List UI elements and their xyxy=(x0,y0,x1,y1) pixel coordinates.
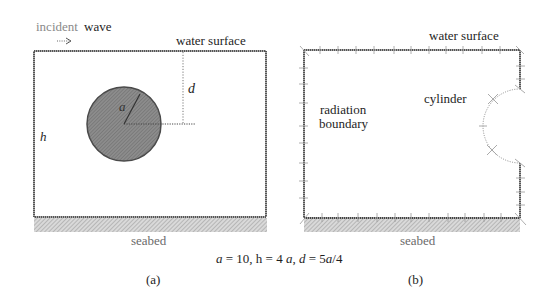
caption-d-tail: /4 xyxy=(332,251,342,266)
parameter-caption: a = 10, h = 4 a, d = 5a/4 xyxy=(216,252,342,265)
figure: incident wave water surface d a h seabed… xyxy=(0,0,556,299)
radius-a-label: a xyxy=(119,100,126,113)
corner-cross-marks xyxy=(300,46,526,225)
radiation-boundary-label-line2: boundary xyxy=(319,117,368,130)
caption-d-value: = 5 xyxy=(305,251,325,266)
cylinder-boundary-arc xyxy=(483,89,520,163)
panel-a xyxy=(34,38,267,232)
seabed-hatch-a xyxy=(34,218,267,232)
seabed-label-a: seabed xyxy=(131,234,166,247)
panel-b-label: (b) xyxy=(408,273,423,286)
panel-a-label: (a) xyxy=(146,273,160,286)
depth-h-label: h xyxy=(40,130,47,143)
water-surface-label-b: water surface xyxy=(429,29,499,42)
submergence-d-label: d xyxy=(188,82,195,95)
seabed-label-b: seabed xyxy=(400,234,435,247)
radiation-boundary-label-line1: radiation xyxy=(320,103,366,116)
wave-label: wave xyxy=(84,20,111,33)
panel-b xyxy=(299,46,526,232)
caption-a-value: = 10, h = 4 xyxy=(223,251,286,266)
seabed-hatch-b xyxy=(304,219,520,232)
incident-label: incident xyxy=(36,20,78,33)
cylinder-label: cylinder xyxy=(424,92,467,105)
cylinder-node-x-marks xyxy=(479,85,525,167)
water-surface-label-a: water surface xyxy=(176,34,246,47)
